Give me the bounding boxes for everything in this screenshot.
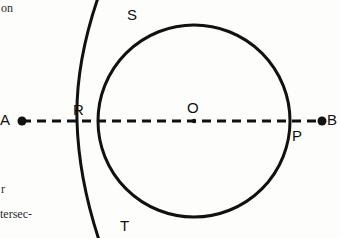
- point-label-r: R: [73, 102, 84, 117]
- point-label-t: T: [120, 218, 129, 233]
- margin-text-fragment-top: on: [1, 2, 13, 14]
- point-label-a: A: [0, 112, 10, 127]
- point-label-o: O: [187, 100, 199, 115]
- point-label-p: P: [292, 128, 302, 143]
- point-marker-a: [18, 117, 27, 126]
- point-marker-o: [192, 119, 196, 123]
- point-marker-b: [318, 117, 327, 126]
- point-label-b: B: [327, 112, 337, 127]
- point-label-s: S: [127, 7, 137, 22]
- margin-text-fragment-middle: r: [1, 183, 5, 195]
- construction-drawing: [0, 0, 340, 238]
- geometry-figure: A R S O P B T on r tersec-: [0, 0, 340, 238]
- margin-text-fragment-bottom: tersec-: [0, 208, 32, 220]
